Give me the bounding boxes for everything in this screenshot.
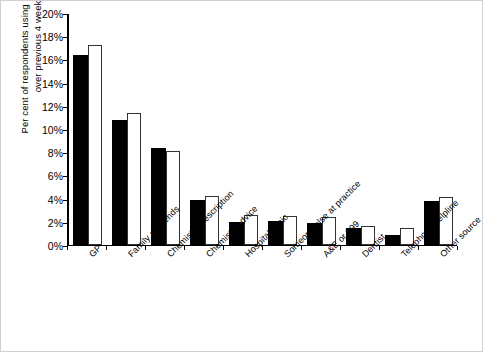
x-tick-mark — [457, 246, 458, 250]
bar-series-white-5 — [283, 216, 298, 245]
y-tick-label: 8% — [27, 148, 63, 158]
bar-series-black-3 — [190, 200, 205, 245]
x-tick-mark — [418, 246, 419, 250]
x-tick-mark — [145, 246, 146, 250]
bar-series-white-1 — [127, 113, 142, 245]
y-tick-label: 18% — [27, 32, 63, 42]
x-tick-mark — [301, 246, 302, 250]
bar-series-white-3 — [205, 196, 220, 245]
y-tick-label: 12% — [27, 102, 63, 112]
y-tick-mark — [63, 14, 67, 15]
bar-series-white-8 — [400, 228, 415, 245]
bar-series-white-4 — [244, 215, 259, 245]
y-tick-label: 16% — [27, 55, 63, 65]
bar-series-black-9 — [424, 201, 439, 245]
bar-series-black-6 — [307, 223, 322, 245]
bar-series-white-7 — [361, 226, 376, 245]
y-tick-label: 14% — [27, 79, 63, 89]
y-tick-label: 10% — [27, 125, 63, 135]
y-tick-mark — [63, 37, 67, 38]
bar-series-white-6 — [322, 217, 337, 245]
y-tick-mark — [63, 130, 67, 131]
bar-series-container — [68, 14, 457, 245]
y-tick-mark — [63, 60, 67, 61]
bar-series-black-8 — [385, 235, 400, 245]
chart-figure: Per cent of respondents using this sourc… — [0, 0, 483, 352]
bar-series-white-9 — [439, 197, 454, 245]
y-tick-mark — [63, 153, 67, 154]
y-tick-mark — [63, 84, 67, 85]
bar-series-white-0 — [88, 45, 103, 245]
x-tick-mark — [184, 246, 185, 250]
y-tick-label: 6% — [27, 171, 63, 181]
x-tick-mark — [340, 246, 341, 250]
bar-series-black-0 — [73, 55, 88, 245]
y-tick-label: 2% — [27, 218, 63, 228]
y-tick-mark — [63, 200, 67, 201]
y-tick-label: 20% — [27, 9, 63, 19]
x-tick-mark — [106, 246, 107, 250]
x-tick-mark — [223, 246, 224, 250]
x-tick-mark — [262, 246, 263, 250]
bar-series-black-7 — [346, 228, 361, 245]
bar-series-black-1 — [112, 120, 127, 245]
bar-series-black-5 — [268, 221, 283, 245]
y-tick-label: 0% — [27, 241, 63, 251]
y-tick-mark — [63, 176, 67, 177]
bar-series-black-4 — [229, 222, 244, 245]
y-tick-mark — [63, 223, 67, 224]
plot-area — [67, 14, 457, 246]
y-tick-mark — [63, 107, 67, 108]
y-axis-tick-labels: 20%18%16%14%12%10%8%6%4%2%0% — [27, 1, 63, 352]
y-tick-label: 4% — [27, 195, 63, 205]
x-tick-mark — [379, 246, 380, 250]
x-tick-mark — [67, 246, 68, 250]
bar-series-white-2 — [166, 151, 181, 245]
bar-series-black-2 — [151, 148, 166, 245]
